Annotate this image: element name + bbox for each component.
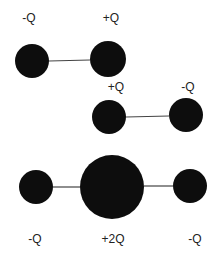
charge-sphere	[19, 170, 53, 204]
charge-sphere	[90, 41, 126, 77]
charge-label: -Q	[181, 80, 194, 94]
charge-sphere	[92, 100, 126, 134]
charge-label: +Q	[108, 80, 124, 94]
bond-line	[126, 116, 169, 117]
bond-line	[49, 60, 90, 61]
configuration-dipole-middle: +Q-Q	[92, 80, 203, 134]
charge-sphere	[169, 98, 203, 132]
configuration-quadrupole-bottom: -Q+2Q-Q	[19, 155, 207, 246]
charge-sphere	[80, 155, 144, 219]
charge-diagram: -Q+Q+Q-Q-Q+2Q-Q	[0, 0, 215, 254]
charge-sphere	[15, 44, 49, 78]
configuration-dipole-top: -Q+Q	[15, 11, 126, 78]
charge-label: -Q	[22, 11, 35, 25]
charge-label: +Q	[103, 11, 119, 25]
charge-label: -Q	[28, 232, 41, 246]
charge-label: -Q	[188, 232, 201, 246]
charge-label: +2Q	[101, 232, 124, 246]
charge-sphere	[173, 169, 207, 203]
